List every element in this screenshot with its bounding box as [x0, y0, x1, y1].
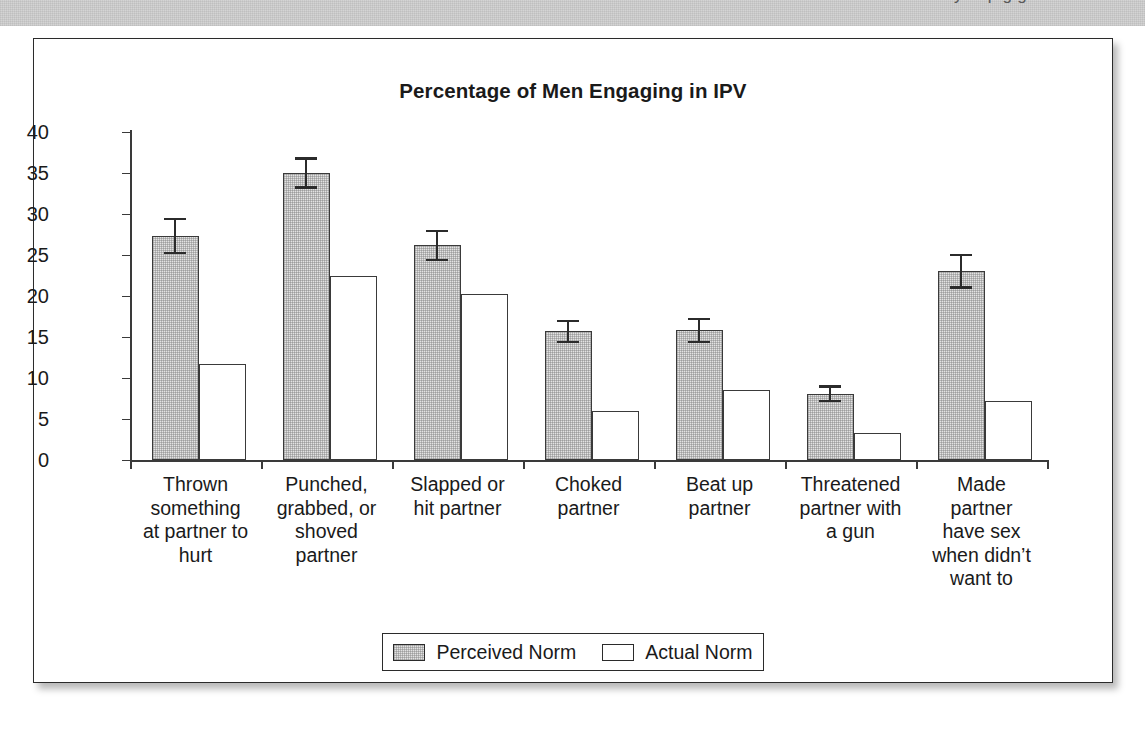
legend-item-label: Perceived Norm: [436, 641, 576, 664]
category-label-line: when didn’t: [916, 544, 1047, 568]
error-bar-cap-bottom: [688, 341, 710, 343]
bar-perceived-norm: [676, 330, 723, 460]
x-axis-category-label: Punched,grabbed, orshovedpartner: [261, 473, 392, 567]
y-axis-tick-label: 30: [0, 204, 49, 224]
bar-actual-norm: [461, 294, 508, 460]
bar-perceived-norm: [545, 331, 592, 460]
category-label-line: partner: [654, 497, 785, 521]
legend-item: Perceived Norm: [393, 641, 576, 664]
category-label-line: Beat up: [654, 473, 785, 497]
x-axis-category-label: Slapped orhit partner: [392, 473, 523, 520]
category-label-line: have sex: [916, 520, 1047, 544]
category-label-line: Punched,: [261, 473, 392, 497]
bar-perceived-norm: [414, 245, 461, 460]
bar-perceived-norm: [938, 271, 985, 460]
gray-filled-square-icon: [393, 644, 425, 661]
y-axis-tick-label: 20: [0, 286, 49, 306]
category-label-line: Choked: [523, 473, 654, 497]
bar-actual-norm: [985, 401, 1032, 460]
category-label-line: grabbed, or: [261, 497, 392, 521]
error-bar-cap-top: [164, 218, 186, 220]
error-bar: [807, 385, 854, 401]
error-bar-cap-top: [688, 318, 710, 320]
scanned-page-header-band: y of p g g: [0, 0, 1145, 26]
bar-perceived-norm: [152, 236, 199, 460]
category-label-line: something: [130, 497, 261, 521]
error-bar: [152, 218, 199, 254]
bar-perceived-norm: [283, 173, 330, 460]
error-bar-cap-bottom: [426, 259, 448, 261]
x-axis-category-label: Beat uppartner: [654, 473, 785, 520]
y-axis-tick-label: 5: [0, 409, 49, 429]
bar-actual-norm: [723, 390, 770, 460]
error-bar-cap-bottom: [557, 341, 579, 343]
category-label-line: Threatened: [785, 473, 916, 497]
error-bar-stem: [567, 320, 569, 343]
y-axis-tick-label: 15: [0, 327, 49, 347]
category-label-line: partner with: [785, 497, 916, 521]
error-bar-cap-top: [295, 157, 317, 159]
error-bar-stem: [305, 157, 307, 188]
category-label-line: partner: [916, 497, 1047, 521]
error-bar: [283, 157, 330, 188]
y-axis-tick-label: 35: [0, 163, 49, 183]
category-label-line: Thrown: [130, 473, 261, 497]
white-filled-square-icon: [602, 644, 634, 661]
error-bar-cap-top: [426, 230, 448, 232]
chart-legend: Perceived NormActual Norm: [382, 633, 764, 671]
category-label-line: partner: [261, 544, 392, 568]
category-label-line: hurt: [130, 544, 261, 568]
x-axis-tick: [261, 460, 263, 469]
category-label-line: shoved: [261, 520, 392, 544]
chart-title: Percentage of Men Engaging in IPV: [34, 79, 1112, 103]
error-bar-cap-bottom: [819, 400, 841, 402]
x-axis-line: [130, 460, 1049, 462]
bar-perceived-norm: [807, 394, 854, 460]
category-label-line: a gun: [785, 520, 916, 544]
error-bar: [676, 318, 723, 343]
x-axis-category-label: Madepartnerhave sexwhen didn’twant to: [916, 473, 1047, 591]
error-bar-cap-top: [950, 254, 972, 256]
category-label-line: partner: [523, 497, 654, 521]
x-axis-category-label: Chokedpartner: [523, 473, 654, 520]
x-axis-category-label: Thrownsomethingat partner tohurt: [130, 473, 261, 567]
error-bar-cap-bottom: [295, 186, 317, 188]
y-axis-tick-label: 10: [0, 368, 49, 388]
x-axis-tick: [130, 460, 132, 469]
bar-actual-norm: [854, 433, 901, 460]
error-bar-cap-bottom: [164, 252, 186, 254]
category-label-line: Slapped or: [392, 473, 523, 497]
x-axis-tick: [392, 460, 394, 469]
x-axis-tick: [654, 460, 656, 469]
x-axis-category-label: Threatenedpartner witha gun: [785, 473, 916, 544]
x-axis-tick: [916, 460, 918, 469]
y-axis-tick-label: 25: [0, 245, 49, 265]
error-bar: [545, 320, 592, 343]
error-bar-cap-top: [819, 385, 841, 387]
error-bar-stem: [698, 318, 700, 343]
category-label-line: hit partner: [392, 497, 523, 521]
x-axis-tick: [785, 460, 787, 469]
x-axis-tick: [523, 460, 525, 469]
y-axis-tick-label: 0: [0, 450, 49, 470]
legend-item: Actual Norm: [602, 641, 752, 664]
clipped-header-text: y of p g g: [0, 0, 1145, 5]
error-bar-stem: [174, 218, 176, 254]
figure-frame: Percentage of Men Engaging in IPV 051015…: [33, 38, 1113, 683]
bar-actual-norm: [330, 276, 377, 460]
category-label-line: at partner to: [130, 520, 261, 544]
bar-actual-norm: [592, 411, 639, 460]
x-axis-tick: [1047, 460, 1049, 469]
category-label-line: want to: [916, 567, 1047, 591]
category-label-line: Made: [916, 473, 1047, 497]
error-bar-cap-top: [557, 320, 579, 322]
error-bar: [938, 254, 985, 288]
error-bar: [414, 230, 461, 261]
error-bar-cap-bottom: [950, 286, 972, 288]
legend-item-label: Actual Norm: [645, 641, 752, 664]
error-bar-stem: [436, 230, 438, 261]
bar-actual-norm: [199, 364, 246, 460]
y-axis-tick-label: 40: [0, 122, 49, 142]
error-bar-stem: [960, 254, 962, 288]
